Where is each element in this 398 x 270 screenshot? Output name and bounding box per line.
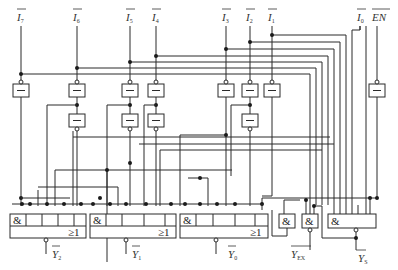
svg-text:Y2: Y2: [52, 248, 61, 261]
svg-text:≥1: ≥1: [68, 226, 80, 238]
buffer-i7: [13, 84, 29, 97]
gate-y0: & ≥1: [180, 214, 268, 254]
svg-text:YEX: YEX: [291, 248, 306, 261]
buffer-i1: [264, 84, 280, 97]
svg-text:&: &: [13, 214, 22, 226]
buffer-i4: [148, 84, 164, 97]
input-label-i3: I3: [221, 9, 231, 24]
input-label-i0: I0: [356, 9, 366, 24]
svg-text:&: &: [183, 214, 192, 226]
output-labels: Y2 Y1 Y0 YEX YS: [52, 246, 367, 265]
svg-text:I0: I0: [356, 11, 364, 24]
svg-text:I6: I6: [72, 11, 80, 24]
gate-y2: & ≥1: [10, 214, 86, 254]
output-label-y1: Y1: [132, 246, 141, 261]
output-label-y2: Y2: [52, 246, 61, 261]
svg-text:&: &: [331, 215, 340, 227]
priority-encoder-diagram: I7 I6 I5 I4 I3 I2 I1 I0: [0, 0, 398, 270]
input-labels: I7 I6 I5 I4 I3 I2 I1 I0: [16, 9, 390, 24]
gate-and-yex-1: &: [272, 200, 300, 236]
svg-text:I5: I5: [125, 11, 133, 24]
svg-text:≥1: ≥1: [250, 226, 262, 238]
buffer-i2: [242, 84, 258, 97]
buffer-i3: [218, 84, 234, 97]
svg-text:Y0: Y0: [228, 248, 237, 261]
input-label-i4: I4: [151, 9, 161, 24]
svg-text:&: &: [305, 215, 314, 227]
buffer-i6: [69, 84, 85, 97]
svg-text:EN: EN: [371, 11, 387, 23]
second-buffers: [69, 97, 258, 131]
buffer2-i5: [122, 114, 138, 127]
svg-text:Y1: Y1: [132, 248, 141, 261]
buffer2-i2: [242, 114, 258, 127]
svg-text:YS: YS: [358, 252, 367, 265]
svg-text:I1: I1: [267, 11, 275, 24]
output-label-ys: YS: [356, 250, 367, 265]
svg-text:I3: I3: [221, 11, 229, 24]
svg-text:I7: I7: [16, 11, 24, 24]
buffer2-i6: [69, 114, 85, 127]
svg-text:≥1: ≥1: [158, 226, 170, 238]
input-label-i2: I2: [245, 9, 255, 24]
buffer-en: [369, 84, 385, 97]
svg-text:&: &: [282, 215, 291, 227]
input-label-i7: I7: [16, 9, 26, 24]
input-label-i1: I1: [267, 9, 277, 24]
svg-text:I2: I2: [245, 11, 253, 24]
enable-bus: [12, 97, 379, 210]
svg-text:I4: I4: [151, 11, 159, 24]
output-label-yex: YEX: [291, 246, 311, 261]
output-label-y0: Y0: [228, 246, 237, 261]
input-label-i5: I5: [125, 9, 135, 24]
input-label-i6: I6: [72, 9, 82, 24]
buffer-i5: [122, 84, 138, 97]
svg-text:&: &: [93, 214, 102, 226]
input-label-en: EN: [371, 9, 390, 23]
input-buffers: [13, 80, 385, 97]
buffer2-i4: [148, 114, 164, 127]
